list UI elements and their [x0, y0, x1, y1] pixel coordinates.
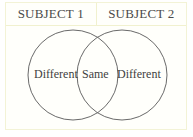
right-different-label: Different [117, 67, 161, 82]
left-different-label: Different [34, 67, 78, 82]
center-same-label: Same [82, 67, 109, 82]
